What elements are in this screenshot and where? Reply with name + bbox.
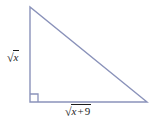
radicand-number: 9 xyxy=(85,105,91,117)
radical-expression-vertical: √x xyxy=(6,50,19,64)
label-horizontal-leg: √x+9 xyxy=(64,104,91,118)
right-triangle-figure: √x √x+9 xyxy=(0,0,157,123)
right-angle-marker-icon xyxy=(30,94,38,102)
radicand-operator: + xyxy=(76,105,84,117)
radical-expression-horizontal: √x+9 xyxy=(64,104,91,118)
triangle-outline xyxy=(30,7,147,102)
radicand-horizontal: x+9 xyxy=(71,104,92,117)
radicand-vertical: x xyxy=(13,50,20,63)
label-vertical-leg: √x xyxy=(6,50,19,64)
